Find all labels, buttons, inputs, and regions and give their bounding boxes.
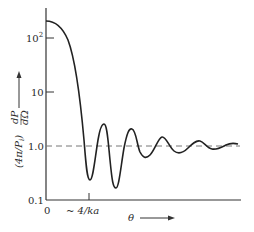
cross-section-curve bbox=[46, 21, 238, 188]
scattering-plot: 102 10 1.0 0.1 0 ~ 4/ka θ (4π/Pi) dP dΩ bbox=[0, 0, 254, 232]
y-axis-label: (4π/Pi) dP dΩ bbox=[9, 71, 30, 168]
y-arrow-head-icon bbox=[17, 71, 22, 78]
y-tick-label-01: 0.1 bbox=[28, 195, 44, 206]
svg-text:(4π/Pi): (4π/Pi) bbox=[13, 135, 26, 168]
x-arrow-head-icon bbox=[168, 216, 175, 221]
x-axis-label: θ bbox=[128, 212, 134, 223]
x-tick-label-0: 0 bbox=[44, 205, 50, 216]
y-tick-label-100: 102 bbox=[26, 31, 43, 44]
y-tick-label-1: 1.0 bbox=[28, 141, 44, 152]
y-tick-label-10: 10 bbox=[31, 87, 44, 98]
x-tick-label-4ka: ~ 4/ka bbox=[66, 205, 99, 216]
svg-text:dΩ: dΩ bbox=[19, 110, 30, 125]
